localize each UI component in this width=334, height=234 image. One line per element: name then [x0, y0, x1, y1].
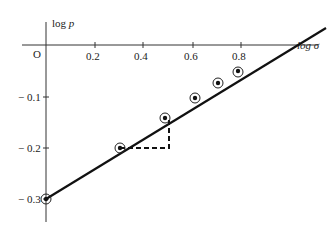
- y-tick-label: − 0.1: [18, 91, 41, 103]
- y-tick-label: − 0.2: [18, 142, 41, 154]
- chart: O 0.2 0.4 0.6 0.8 − 0.1 − 0.2 − 0.3 log …: [0, 0, 334, 234]
- y-tick-label: − 0.3: [18, 193, 41, 205]
- data-point: [233, 67, 243, 77]
- slope-triangle: [120, 118, 169, 148]
- x-tick-label: 0.8: [232, 50, 246, 62]
- data-point: [213, 78, 223, 88]
- x-tick-label: 0.2: [86, 50, 100, 62]
- x-axis-label: log σ: [297, 39, 320, 51]
- data-point: [190, 93, 200, 103]
- origin-label: O: [33, 48, 41, 60]
- x-tick-label: 0.6: [184, 50, 198, 62]
- x-tick-label: 0.4: [134, 50, 148, 62]
- y-axis-label: log p: [52, 17, 75, 29]
- data-point: [160, 113, 170, 123]
